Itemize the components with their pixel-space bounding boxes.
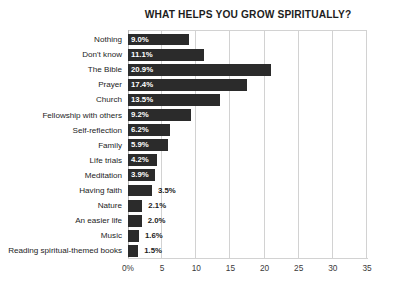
bar-value-label-inside: 20.9%	[131, 64, 153, 76]
bar-row: Church13.5%	[0, 92, 394, 107]
bar-row: An easier life2.0%	[0, 213, 394, 228]
category-label: Having faith	[0, 183, 122, 198]
bar-row: Having faith3.5%	[0, 183, 394, 198]
bar-value-label-inside: 13.5%	[131, 94, 153, 106]
bar-chart: WHAT HELPS YOU GROW SPIRITUALLY? Nothing…	[0, 0, 394, 300]
bar-value-label-inside: 3.9%	[131, 169, 149, 181]
chart-title: WHAT HELPS YOU GROW SPIRITUALLY?	[128, 9, 368, 20]
category-label: Family	[0, 138, 122, 153]
bar-value-label-inside: 4.2%	[131, 154, 149, 166]
x-tick-label-35: 35	[347, 263, 387, 273]
bar-value-label-outside: 2.0%	[148, 215, 166, 227]
bar-row: Don't know11.1%	[0, 47, 394, 62]
bar	[128, 215, 142, 227]
bar-row: Family5.9%	[0, 138, 394, 153]
bar-value-label-outside: 2.1%	[148, 200, 166, 212]
bar-row: Self-reflection6.2%	[0, 123, 394, 138]
bar-row: Nothing9.0%	[0, 32, 394, 47]
bar	[128, 185, 152, 197]
category-label: The Bible	[0, 62, 122, 77]
bar-value-label-inside: 6.2%	[131, 124, 149, 136]
category-label: Nature	[0, 198, 122, 213]
category-label: Fellowship with others	[0, 108, 122, 123]
bar-row: Life trials4.2%	[0, 153, 394, 168]
bar-row: Music1.6%	[0, 228, 394, 243]
bar	[128, 230, 139, 242]
bar-value-label-inside: 17.4%	[131, 79, 153, 91]
bar-row: Nature2.1%	[0, 198, 394, 213]
category-label: Don't know	[0, 47, 122, 62]
bar-row: The Bible20.9%	[0, 62, 394, 77]
category-label: Nothing	[0, 32, 122, 47]
category-label: Church	[0, 92, 122, 107]
bar-value-label-inside: 9.2%	[131, 109, 149, 121]
bar-value-label-outside: 1.5%	[144, 245, 162, 257]
category-label: Music	[0, 228, 122, 243]
bar	[128, 200, 142, 212]
bar-row: Fellowship with others9.2%	[0, 108, 394, 123]
category-label: An easier life	[0, 213, 122, 228]
category-label: Life trials	[0, 153, 122, 168]
bar-row: Prayer17.4%	[0, 77, 394, 92]
category-label: Meditation	[0, 168, 122, 183]
category-label: Self-reflection	[0, 123, 122, 138]
bar-row: Meditation3.9%	[0, 168, 394, 183]
bar-value-label-inside: 5.9%	[131, 139, 149, 151]
bar-value-label-inside: 9.0%	[131, 34, 149, 46]
category-label: Prayer	[0, 77, 122, 92]
bar-value-label-outside: 3.5%	[158, 185, 176, 197]
category-label: Reading spiritual-themed books	[0, 243, 122, 258]
bar-value-label-outside: 1.6%	[145, 230, 163, 242]
bar-row: Reading spiritual-themed books1.5%	[0, 243, 394, 258]
bar	[128, 245, 138, 257]
bar-value-label-inside: 11.1%	[131, 49, 153, 61]
